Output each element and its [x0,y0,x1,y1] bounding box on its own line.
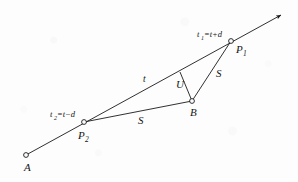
ray-diagram: A P 2 P 1 B S S U t 1 =t+d t 2 =t−d t [0,0,298,182]
segment-b-p1 [192,41,231,101]
svg-text:t: t [197,29,200,39]
point-label-p2: P 2 [77,129,89,144]
parameter-label-t2: t 2 =t−d [50,109,76,121]
svg-text:t: t [50,109,53,119]
segment-label-s-lower: S [138,114,144,126]
segment-label-u: U [176,78,185,90]
svg-text:=t+d: =t+d [204,29,223,39]
parameter-label-t1: t 1 =t+d [197,29,223,41]
svg-text:1: 1 [243,49,247,58]
svg-text:2: 2 [85,135,89,144]
svg-text:P: P [77,129,85,141]
point-label-b: B [190,106,197,118]
point-label-p1: P 1 [235,43,247,58]
segment-label-s-upper: S [216,67,222,79]
parameter-label-t: t [143,74,146,84]
point-label-a: A [23,161,31,173]
svg-text:P: P [235,43,243,55]
point-marker-p1 [229,39,234,44]
point-marker-b [190,99,195,104]
point-marker-p2 [82,120,87,125]
svg-text:=t−d: =t−d [57,109,76,119]
point-marker-a [24,153,29,158]
main-ray [26,15,281,155]
